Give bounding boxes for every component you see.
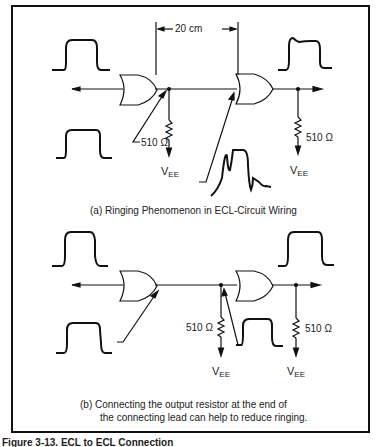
resistor-label-left-a: 510 Ω (141, 137, 168, 148)
waveform-output-a (278, 38, 332, 70)
resistor-label-right-b: 510 Ω (305, 323, 332, 334)
vee-label-left-b: VEE (212, 365, 230, 379)
waveform-input-top-b (52, 232, 108, 266)
waveform-end-of-lead-b (236, 319, 283, 346)
or-gate-1a (120, 75, 157, 105)
dimension-label: 20 cm (175, 23, 202, 34)
resistor-label-left-b: 510 Ω (186, 322, 213, 333)
circuit-diagram (0, 0, 384, 447)
caption-panel-b-line1: (b) Connecting the output resistor at th… (80, 399, 287, 410)
waveform-input-bottom-a (56, 130, 112, 158)
resistor-label-right-a: 510 Ω (306, 132, 333, 143)
vee-label-left-a: VEE (161, 165, 179, 179)
waveform-input-bottom-b (56, 323, 112, 353)
caption-panel-a: (a) Ringing Phenomenon in ECL-Circuit Wi… (90, 205, 297, 216)
waveform-ringing-a (211, 150, 271, 196)
waveform-input-top-a (52, 40, 110, 70)
figure-caption: Figure 3-13. ECL to ECL Connection (2, 437, 173, 447)
vee-label-right-a: VEE (290, 164, 308, 178)
or-gate-2b (236, 271, 273, 301)
waveform-output-b (278, 232, 334, 266)
caption-panel-b-line2: the connecting lead can help to reduce r… (100, 412, 307, 423)
or-gate-2a (236, 74, 273, 104)
vee-label-right-b: VEE (287, 365, 305, 379)
